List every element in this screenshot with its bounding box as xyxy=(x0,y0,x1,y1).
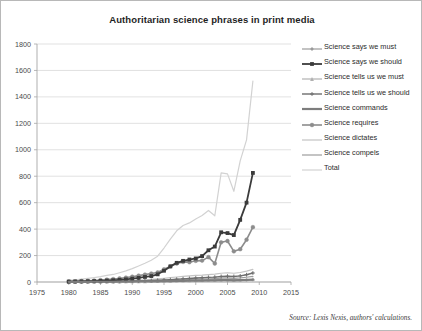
x-axis-tick-label: 2015 xyxy=(283,288,299,297)
legend-item-label: Science says we should xyxy=(323,58,402,65)
data-point xyxy=(213,245,217,249)
data-point xyxy=(207,255,211,259)
x-axis-tick-label: 2005 xyxy=(220,288,236,297)
legend-item[interactable]: Science says we must xyxy=(301,39,422,54)
data-point xyxy=(310,62,314,66)
legend-item[interactable]: Science tells us we must xyxy=(301,69,422,84)
data-point xyxy=(251,271,255,275)
legend-swatch-none-icon xyxy=(301,132,323,144)
legend-item-label: Science requires xyxy=(323,119,378,126)
data-point xyxy=(156,272,160,276)
data-point xyxy=(251,171,255,175)
data-point xyxy=(219,240,223,244)
data-point xyxy=(310,47,314,51)
x-axis-tick-label: 1980 xyxy=(61,288,77,297)
data-point xyxy=(219,230,223,234)
legend-swatch-diamond-icon xyxy=(301,41,323,53)
data-point xyxy=(245,238,249,242)
y-axis-tick-label: 600 xyxy=(19,198,31,207)
series-line xyxy=(69,173,253,282)
data-point xyxy=(226,239,230,243)
legend-item-label: Science says we must xyxy=(323,43,396,50)
x-axis-tick-labels: 197519801985199019952000200520102015 xyxy=(29,288,299,297)
x-axis-tick-label: 2000 xyxy=(188,288,204,297)
data-point xyxy=(181,259,185,263)
y-axis-tick-label: 800 xyxy=(19,172,31,181)
data-point xyxy=(194,257,198,261)
legend-item[interactable]: Science says we should xyxy=(301,54,422,69)
chart-figure: Authoritarian science phrases in print m… xyxy=(0,0,422,331)
axes xyxy=(34,44,291,285)
x-axis-tick-label: 1995 xyxy=(156,288,172,297)
legend-item-label: Total xyxy=(323,164,339,171)
legend-item[interactable]: Science compels xyxy=(301,145,422,160)
data-point xyxy=(310,123,314,127)
legend-item-label: Science commands xyxy=(323,104,388,111)
data-point xyxy=(226,231,230,235)
data-point xyxy=(130,277,134,281)
y-axis-tick-label: 400 xyxy=(19,225,31,234)
data-point xyxy=(200,259,204,263)
y-axis-tick-label: 1800 xyxy=(15,40,31,49)
legend-swatch-circle-icon xyxy=(301,117,323,129)
y-axis-tick-label: 1000 xyxy=(15,145,31,154)
legend-swatch-cross-icon xyxy=(301,86,323,98)
series-science-says-we-should xyxy=(67,171,255,283)
data-point xyxy=(188,258,192,262)
y-axis-tick-labels: 020040060080010001200140016001800 xyxy=(15,40,31,287)
chart-legend: Science says we mustScience says we shou… xyxy=(301,39,422,176)
legend-item-label: Science tells us we must xyxy=(323,73,404,80)
legend-item-label: Science compels xyxy=(323,149,379,156)
data-point xyxy=(149,274,153,278)
legend-swatch-triangle-icon xyxy=(301,71,323,83)
legend-item[interactable]: Science tells us we should xyxy=(301,85,422,100)
data-point xyxy=(310,92,314,96)
data-point xyxy=(251,225,255,229)
legend-item-label: Science dictates xyxy=(323,134,377,141)
data-point xyxy=(162,269,166,273)
legend-swatch-none-icon xyxy=(301,101,323,113)
y-axis-tick-label: 1600 xyxy=(15,66,31,75)
data-point xyxy=(200,254,204,258)
legend-item-label: Science tells us we should xyxy=(323,89,410,96)
legend-item[interactable]: Science commands xyxy=(301,100,422,115)
data-point xyxy=(238,218,242,222)
data-point xyxy=(143,275,147,279)
data-point xyxy=(175,261,179,265)
series-total xyxy=(69,81,253,280)
legend-swatch-none-icon xyxy=(301,162,323,174)
data-point xyxy=(232,233,236,237)
data-point xyxy=(207,248,211,252)
data-point xyxy=(238,247,242,251)
y-axis-tick-label: 1200 xyxy=(15,119,31,128)
legend-item[interactable]: Science requires xyxy=(301,115,422,130)
legend-item[interactable]: Total xyxy=(301,161,422,176)
series-line xyxy=(69,81,253,280)
data-point xyxy=(245,201,249,205)
data-point xyxy=(245,273,249,277)
legend-item[interactable]: Science dictates xyxy=(301,130,422,145)
y-axis-tick-label: 1400 xyxy=(15,92,31,101)
x-axis-tick-label: 1975 xyxy=(29,288,45,297)
data-point xyxy=(168,264,172,268)
y-axis-tick-label: 200 xyxy=(19,251,31,260)
data-point xyxy=(232,249,236,253)
data-point xyxy=(137,276,141,280)
legend-swatch-none-icon xyxy=(301,147,323,159)
legend-swatch-square-icon xyxy=(301,56,323,68)
x-axis-tick-label: 2010 xyxy=(251,288,267,297)
source-note: Source: Lexis Nexis, authors' calculatio… xyxy=(289,314,412,322)
x-axis-tick-label: 1985 xyxy=(93,288,109,297)
gridlines xyxy=(37,44,291,282)
data-series-layer xyxy=(67,81,255,284)
y-axis-tick-label: 0 xyxy=(27,278,31,287)
x-axis-tick-label: 1990 xyxy=(124,288,140,297)
data-point xyxy=(213,262,217,266)
